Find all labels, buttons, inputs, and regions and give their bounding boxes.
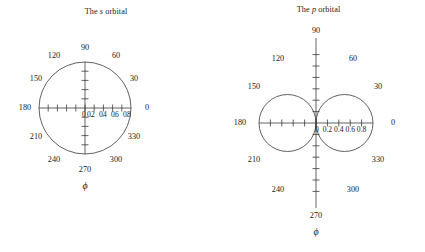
p-radial-label-0.8: 0.8 — [357, 126, 367, 134]
s-angle-label-330: 330 — [128, 133, 140, 141]
p-radial-label-0.4: 0.4 — [334, 126, 344, 134]
s-angle-label-240: 240 — [48, 156, 60, 164]
p-angle-label-150: 150 — [248, 83, 260, 91]
p-angle-label-240: 240 — [272, 186, 284, 194]
p-angle-label-0: 0 — [391, 119, 395, 127]
s-angle-label-90: 90 — [81, 44, 89, 52]
p-radial-label-0.6: 0.6 — [345, 126, 355, 134]
p-radial-label-0: 0 — [315, 126, 319, 134]
s-angle-label-180: 180 — [19, 104, 31, 112]
s-radial-label-0.8: 0.8 — [123, 111, 130, 119]
p-angle-label-90: 90 — [312, 27, 320, 35]
p-angle-label-300: 300 — [347, 186, 359, 194]
s-radial-label-0.4: 0.4 — [99, 111, 106, 119]
s-angle-label-150: 150 — [30, 75, 42, 83]
s-radial-label-0.2: 0.2 — [87, 111, 94, 119]
s-angle-label-210: 210 — [30, 133, 42, 141]
s-angle-label-30: 30 — [130, 75, 138, 83]
orbital-polar-plots-figure: The s orbital — [0, 0, 425, 252]
p-angle-label-30: 30 — [374, 83, 382, 91]
s-angle-label-270: 270 — [79, 166, 91, 174]
s-orbital-svg — [0, 0, 212, 252]
s-orbital-phi-axis-label: ϕ — [82, 181, 87, 191]
p-orbital-phi-axis-label: ϕ — [313, 227, 318, 237]
p-orbital-plot: The p orbital — [212, 0, 425, 252]
p-angle-label-330: 330 — [372, 156, 384, 164]
s-orbital-plot: The s orbital — [0, 0, 212, 252]
s-radial-label-0: 0 — [82, 111, 85, 119]
s-angle-label-60: 60 — [112, 52, 120, 60]
p-angle-label-60: 60 — [349, 55, 357, 63]
p-angle-label-180: 180 — [234, 119, 246, 127]
p-angle-label-270: 270 — [310, 212, 322, 220]
p-angle-label-210: 210 — [248, 156, 260, 164]
s-angle-label-300: 300 — [110, 156, 122, 164]
p-radial-label-0.2: 0.2 — [323, 126, 333, 134]
s-angle-label-0: 0 — [145, 104, 149, 112]
s-radial-label-0.6: 0.6 — [111, 111, 118, 119]
p-angle-label-120: 120 — [272, 55, 284, 63]
s-angle-label-120: 120 — [48, 52, 60, 60]
